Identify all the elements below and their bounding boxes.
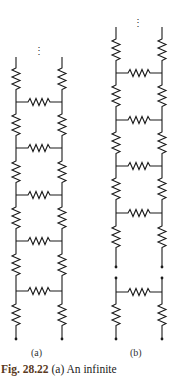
circuit-b: ⋮ bbox=[112, 17, 166, 340]
rung-resistor bbox=[16, 145, 62, 152]
rung-resistor bbox=[116, 70, 162, 77]
terminal-dot bbox=[15, 338, 18, 341]
terminal-dot bbox=[161, 266, 164, 269]
rungs-b bbox=[116, 70, 162, 217]
figure-number: Fig. 28.22 bbox=[1, 363, 49, 375]
rung-resistor bbox=[16, 288, 62, 295]
circuit-diagram: ⋮ bbox=[0, 0, 169, 378]
sublabel-a: (a) bbox=[31, 347, 42, 358]
terminal-dot bbox=[161, 277, 164, 280]
detached-section-b bbox=[112, 278, 166, 339]
rungs-a bbox=[16, 99, 62, 295]
left-rail-b bbox=[112, 27, 120, 267]
terminal-dot bbox=[115, 338, 118, 341]
terminal-dot bbox=[115, 277, 118, 280]
figure-caption: Fig. 28.22 (a) An infinite bbox=[1, 363, 117, 375]
rung-resistor bbox=[16, 238, 62, 245]
rung-resistor bbox=[116, 289, 162, 296]
rung-resistor bbox=[16, 99, 62, 106]
terminal-dot bbox=[115, 266, 118, 269]
circuit-a: ⋮ bbox=[12, 45, 66, 340]
sublabel-b: (b) bbox=[130, 347, 142, 358]
rung-resistor bbox=[116, 117, 162, 124]
rung-resistor bbox=[116, 163, 162, 170]
rung-resistor bbox=[116, 210, 162, 217]
continuation-dots-a: ⋮ bbox=[34, 45, 44, 56]
rung-resistor bbox=[16, 192, 62, 199]
terminal-dot bbox=[161, 338, 164, 341]
caption-text: (a) An infinite bbox=[49, 363, 117, 375]
terminal-dot bbox=[61, 338, 64, 341]
left-rail-a bbox=[12, 57, 20, 339]
right-rail-a bbox=[58, 57, 66, 339]
right-rail-b bbox=[158, 27, 166, 267]
continuation-dots-b: ⋮ bbox=[133, 17, 143, 28]
